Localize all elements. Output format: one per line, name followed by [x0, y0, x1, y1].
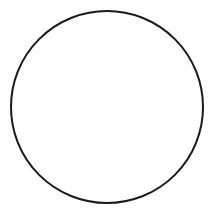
circle-outline: [11, 11, 203, 203]
circle-eighths-svg: [0, 0, 215, 210]
pie-fraction-diagram: [0, 0, 215, 210]
